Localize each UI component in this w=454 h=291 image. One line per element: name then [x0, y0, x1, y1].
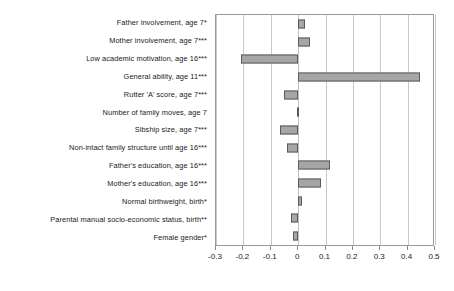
x-tick-label: -0.1	[263, 252, 277, 262]
category-label-row: Female gender*	[0, 228, 211, 246]
gridline	[435, 15, 436, 245]
category-label-column: Father involvement, age 7*Mother involve…	[0, 14, 211, 246]
x-tick	[407, 246, 408, 250]
bar-row	[216, 68, 433, 86]
x-tick-label: 0.5	[428, 252, 439, 262]
x-tick	[297, 246, 298, 250]
category-label: Rutter 'A' score, age 7***	[124, 90, 207, 99]
bar	[298, 196, 302, 205]
x-tick	[352, 246, 353, 250]
bar-row	[216, 86, 433, 104]
bar-row	[216, 103, 433, 121]
category-label-row: Non-intact family structure until age 16…	[0, 139, 211, 157]
category-label-row: Mother involvement, age 7***	[0, 32, 211, 50]
bar	[291, 214, 298, 223]
category-label: General ability, age 11***	[124, 72, 207, 81]
x-tick	[242, 246, 243, 250]
x-tick	[215, 246, 216, 250]
x-tick-label: -0.3	[208, 252, 222, 262]
category-label-row: Rutter 'A' score, age 7***	[0, 85, 211, 103]
category-label-row: Normal birthweight, birth*	[0, 192, 211, 210]
bar-row	[216, 192, 433, 210]
bar	[293, 232, 298, 241]
x-tick-label: -0.2	[235, 252, 249, 262]
x-tick-label: 0.3	[374, 252, 385, 262]
category-label: Mother's education, age 16***	[107, 179, 207, 188]
bar	[298, 161, 329, 170]
category-label: Father's education, age 16***	[109, 161, 207, 170]
category-label: Number of family moves, age 7	[103, 108, 207, 117]
bar	[298, 19, 305, 28]
x-tick	[434, 246, 435, 250]
bar-row	[216, 33, 433, 51]
x-tick-label: 0.1	[319, 252, 330, 262]
category-label: Parental manual socio-economic status, b…	[50, 215, 207, 224]
bar-row	[216, 50, 433, 68]
x-tick-label: 0.4	[401, 252, 412, 262]
bar-series	[216, 15, 433, 245]
category-label-row: Sibship size, age 7***	[0, 121, 211, 139]
category-label-row: Low academic motivation, age 16***	[0, 50, 211, 68]
category-label-row: General ability, age 11***	[0, 68, 211, 86]
bar-row	[216, 157, 433, 175]
bar-row	[216, 139, 433, 157]
category-label: Mother involvement, age 7***	[109, 36, 207, 45]
bar	[297, 108, 300, 117]
bar-row	[216, 174, 433, 192]
horizontal-bar-chart: Father involvement, age 7*Mother involve…	[0, 0, 454, 291]
x-tick	[379, 246, 380, 250]
x-tick	[325, 246, 326, 250]
plot-area	[215, 14, 434, 246]
bar-row	[216, 121, 433, 139]
category-label: Female gender*	[153, 233, 207, 242]
bar	[280, 125, 298, 134]
x-tick-label: 0.2	[346, 252, 357, 262]
bar	[298, 179, 321, 188]
category-label: Father involvement, age 7*	[117, 18, 207, 27]
x-tick-label: 0	[295, 252, 299, 262]
bar-row	[216, 15, 433, 33]
x-tick	[270, 246, 271, 250]
category-label: Sibship size, age 7***	[135, 125, 207, 134]
bar	[284, 90, 298, 99]
bar	[298, 72, 420, 81]
category-label: Normal birthweight, birth*	[122, 197, 207, 206]
bar	[241, 55, 298, 64]
category-label-row: Mother's education, age 16***	[0, 175, 211, 193]
category-label: Low academic motivation, age 16***	[86, 54, 207, 63]
category-label-row: Parental manual socio-economic status, b…	[0, 210, 211, 228]
bar-row	[216, 210, 433, 228]
bar	[287, 143, 298, 152]
category-label: Non-intact family structure until age 16…	[69, 143, 207, 152]
bar	[298, 37, 310, 46]
category-label-row: Number of family moves, age 7	[0, 103, 211, 121]
category-label-row: Father involvement, age 7*	[0, 14, 211, 32]
bar-row	[216, 227, 433, 245]
category-label-row: Father's education, age 16***	[0, 157, 211, 175]
x-axis: -0.3-0.2-0.100.10.20.30.40.5	[215, 246, 434, 276]
